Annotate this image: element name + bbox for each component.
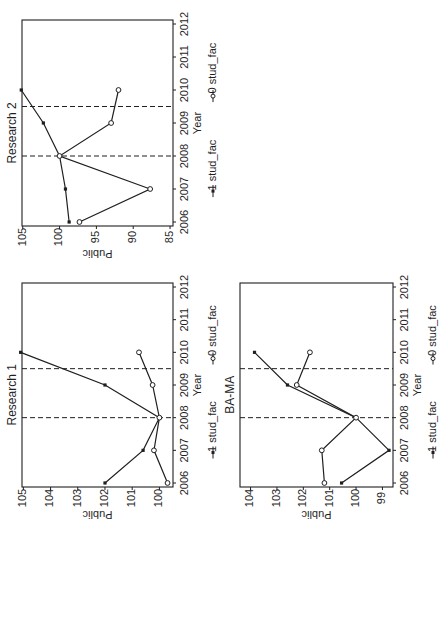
value-tick-label: 85 bbox=[163, 231, 175, 243]
year-tick-label: 2011 bbox=[398, 308, 410, 332]
legend-label-1-stud-fac: 1 stud_fac bbox=[206, 401, 218, 452]
open-marker bbox=[137, 350, 142, 355]
figure: 2006200720082009201020112012Year10510095… bbox=[0, 0, 444, 624]
value-tick-label: 100 bbox=[349, 489, 361, 507]
panel-research-2: 2006200720082009201020112012Year10510095… bbox=[5, 12, 218, 260]
panel-ba-ma: 2006200720082009201020112012Year10410310… bbox=[223, 275, 438, 521]
value-tick-label: 103 bbox=[71, 489, 83, 507]
year-tick-label: 2011 bbox=[178, 308, 190, 332]
open-marker bbox=[322, 481, 327, 486]
open-marker bbox=[308, 350, 313, 355]
legend-open-marker bbox=[431, 357, 435, 361]
open-marker bbox=[319, 448, 324, 453]
open-marker bbox=[294, 383, 299, 388]
value-tick-label: 102 bbox=[98, 489, 110, 507]
value-tick-label: 104 bbox=[43, 489, 55, 507]
value-tick-label: 100 bbox=[152, 489, 164, 507]
filled-marker bbox=[387, 449, 390, 452]
filled-marker bbox=[253, 351, 256, 354]
year-tick-label: 2008 bbox=[178, 405, 190, 429]
legend-label-0-stud-fac: 0 stud_fac bbox=[206, 42, 218, 93]
legend-label-1-stud-fac: 1 stud_fac bbox=[426, 401, 438, 452]
value-tick-label: 105 bbox=[16, 228, 28, 246]
x-axis-label: Year bbox=[411, 374, 423, 397]
year-tick-label: 2007 bbox=[178, 177, 190, 201]
open-marker bbox=[148, 187, 153, 192]
legend-label-0-stud-fac: 0 stud_fac bbox=[426, 305, 438, 356]
open-marker bbox=[150, 383, 155, 388]
year-tick-label: 2006 bbox=[178, 210, 190, 234]
filled-marker bbox=[68, 220, 71, 223]
year-tick-label: 2007 bbox=[398, 438, 410, 462]
value-tick-label: 103 bbox=[270, 489, 282, 507]
x-axis-label: Year bbox=[191, 112, 203, 135]
panel-title: BA-MA bbox=[223, 376, 237, 414]
open-marker bbox=[77, 220, 82, 225]
year-tick-label: 2008 bbox=[398, 405, 410, 429]
filled-marker bbox=[64, 187, 67, 190]
value-tick-label: 101 bbox=[125, 489, 137, 507]
filled-marker bbox=[103, 383, 106, 386]
legend-label-1-stud-fac: 1 stud_fac bbox=[206, 139, 218, 190]
year-tick-label: 2012 bbox=[398, 275, 410, 299]
value-tick-label: 100 bbox=[52, 228, 64, 246]
year-tick-label: 2009 bbox=[398, 373, 410, 397]
value-tick-label: 95 bbox=[89, 231, 101, 243]
filled-marker bbox=[286, 383, 289, 386]
open-marker bbox=[57, 154, 62, 159]
year-tick-label: 2008 bbox=[178, 144, 190, 168]
open-marker bbox=[109, 121, 114, 126]
year-tick-label: 2006 bbox=[398, 471, 410, 495]
value-tick-label: 104 bbox=[243, 489, 255, 507]
year-tick-label: 2009 bbox=[178, 373, 190, 397]
legend-open-marker bbox=[211, 357, 215, 361]
x-axis-label: Year bbox=[191, 374, 203, 397]
panel-research-1: 2006200720082009201020112012Year10510410… bbox=[5, 275, 218, 521]
panel-title: Research 1 bbox=[5, 364, 19, 426]
filled-marker bbox=[340, 481, 343, 484]
value-tick-label: 99 bbox=[375, 492, 387, 504]
value-tick-label: 90 bbox=[126, 231, 138, 243]
plot-frame bbox=[240, 283, 393, 487]
open-marker bbox=[157, 415, 162, 420]
year-tick-label: 2011 bbox=[178, 45, 190, 69]
year-tick-label: 2010 bbox=[178, 78, 190, 102]
open-marker bbox=[165, 481, 170, 486]
value-tick-label: 105 bbox=[16, 489, 28, 507]
y-axis-label: Public bbox=[82, 248, 112, 260]
year-tick-label: 2010 bbox=[398, 340, 410, 364]
year-tick-label: 2006 bbox=[178, 471, 190, 495]
y-axis-label: Public bbox=[82, 509, 112, 521]
value-tick-label: 102 bbox=[296, 489, 308, 507]
year-tick-label: 2009 bbox=[178, 111, 190, 135]
open-marker bbox=[116, 88, 121, 93]
open-marker bbox=[152, 448, 157, 453]
year-tick-label: 2010 bbox=[178, 340, 190, 364]
filled-marker bbox=[141, 449, 144, 452]
y-axis-label: Public bbox=[301, 509, 331, 521]
open-marker bbox=[354, 415, 359, 420]
legend-open-marker bbox=[211, 94, 215, 98]
year-tick-label: 2007 bbox=[178, 438, 190, 462]
year-tick-label: 2012 bbox=[178, 12, 190, 36]
year-tick-label: 2012 bbox=[178, 275, 190, 299]
value-tick-label: 101 bbox=[323, 489, 335, 507]
filled-marker bbox=[19, 351, 22, 354]
filled-marker bbox=[42, 121, 45, 124]
filled-marker bbox=[103, 481, 106, 484]
panel-title: Research 2 bbox=[5, 102, 19, 164]
legend-label-0-stud-fac: 0 stud_fac bbox=[206, 305, 218, 356]
filled-marker bbox=[20, 88, 23, 91]
